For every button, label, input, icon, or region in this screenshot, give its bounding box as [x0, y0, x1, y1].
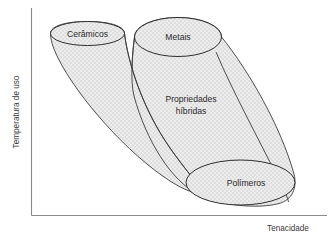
diagram-canvas: Cerâmicos Metais Polímeros Propriedades …	[0, 0, 330, 246]
ceramics-label: Cerâmicos	[67, 29, 108, 39]
hybrid-properties-label-line1: Propriedades	[165, 94, 216, 104]
materials-property-diagram: Cerâmicos Metais Polímeros Propriedades …	[0, 0, 330, 246]
metals-label: Metais	[165, 32, 190, 42]
hybrid-properties-label-line2: híbridas	[176, 106, 207, 116]
y-axis-label: Temperatura de uso	[12, 75, 21, 148]
x-axis-label: Tenacidade	[267, 224, 309, 233]
polymers-label: Polímeros	[227, 178, 266, 188]
